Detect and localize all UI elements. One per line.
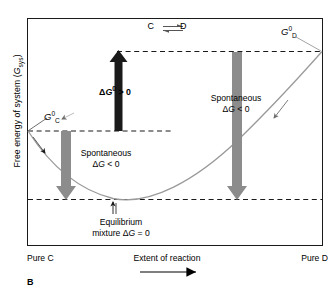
equilibrium-line2: mixture ΔG = 0: [57, 228, 185, 239]
equilibrium-label: Equilibrium mixture ΔG = 0: [57, 217, 185, 239]
y-axis-title-subscript: sys: [17, 57, 24, 67]
equilibrium-pointer-arrow: [113, 202, 116, 214]
spontaneous-right-arrow: [227, 52, 247, 200]
product-label: D: [180, 21, 187, 31]
g-superscript: 0: [112, 85, 116, 92]
gd-subscript: D: [292, 32, 297, 39]
g-symbol: G: [129, 228, 136, 238]
equilibrium-mixture-word: mixture: [92, 228, 123, 238]
dashed-level-lines: [28, 52, 322, 200]
y-axis-title-prefix: Free energy of system (: [12, 74, 22, 167]
standard-free-energy-D-label: G0D: [281, 23, 297, 41]
spontaneous-left-title: Spontaneous: [58, 148, 154, 159]
gc-subscript: C: [55, 117, 60, 124]
standard-free-energy-C-label: G0C: [44, 108, 60, 126]
relation: < 0: [237, 104, 249, 114]
spontaneous-left-label: Spontaneous ΔG < 0: [58, 148, 154, 170]
reactant-label: C: [148, 21, 155, 31]
y-axis-title-symbol: G: [12, 68, 22, 75]
relation: < 0: [107, 159, 119, 169]
g-symbol: G: [98, 159, 105, 169]
relation: > 0: [118, 87, 130, 97]
spontaneous-right-label: Spontaneous ΔG < 0: [182, 93, 290, 115]
spontaneous-right-detail: ΔG < 0: [182, 104, 290, 115]
x-axis-left-endpoint-label: Pure C: [27, 253, 54, 263]
spontaneous-right-title: Spontaneous: [182, 93, 290, 104]
plot-graphics: [0, 0, 334, 296]
y-axis-title: Free energy of system (Gsys): [12, 1, 24, 221]
curve-arrow-gc-pointer: [62, 113, 74, 119]
equilibrium-line1: Equilibrium: [57, 217, 185, 228]
curve-arrow-left: [33, 137, 45, 153]
figure-panel-b: CD G0D G0C ΔG0 > 0 Spontaneous ΔG < 0 Sp…: [0, 0, 334, 296]
leader-line-G0D: [296, 37, 321, 51]
panel-letter: B: [27, 277, 34, 287]
g-symbol: G: [228, 104, 235, 114]
free-energy-curve: [28, 52, 322, 200]
gc-superscript: 0: [51, 110, 55, 117]
gd-superscript: 0: [288, 25, 292, 32]
delta-g-standard-label: ΔG0 > 0: [75, 83, 155, 98]
relation: = 0: [138, 228, 150, 238]
spontaneous-left-detail: ΔG < 0: [58, 159, 154, 170]
x-axis-right-endpoint-label: Pure D: [301, 253, 328, 263]
y-axis-title-suffix: ): [12, 54, 22, 57]
